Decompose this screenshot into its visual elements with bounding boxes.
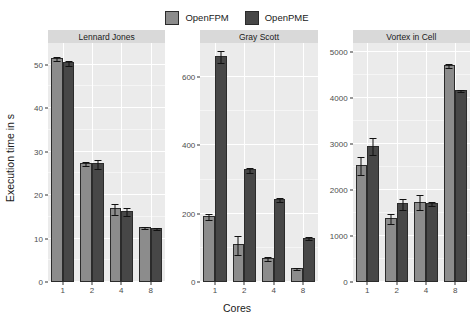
error-bar-cap-top [264, 257, 271, 258]
y-axis-2: 010002000300040005000 [323, 30, 353, 296]
bar-openpme [397, 203, 409, 282]
y-tick-label: 2000 [330, 186, 348, 195]
bar-group [353, 43, 382, 282]
error-bar-cap-bottom [153, 230, 160, 231]
bar-group [77, 43, 106, 282]
bar-group [259, 43, 288, 282]
error-bar-cap-bottom [235, 255, 242, 256]
bar-group [200, 43, 229, 282]
bar-openpme [121, 211, 133, 282]
error-bar-cap-top [458, 90, 465, 91]
y-axis-1: 0200400600 [170, 30, 200, 296]
panel-col-1: Gray Scott1248 [200, 30, 317, 296]
bar-openfpm [139, 227, 151, 282]
bar-openpme [244, 169, 256, 282]
error-bar-cap-bottom [53, 61, 60, 62]
x-tick-mark [396, 282, 397, 285]
error-bar-cap-bottom [94, 169, 101, 170]
bar-layer-1 [200, 43, 317, 282]
error-bar-cap-top [112, 204, 119, 205]
error-bar-cap-top [235, 236, 242, 237]
error-bar-cap-bottom [387, 224, 394, 225]
x-tick-mark [244, 282, 245, 285]
error-bar-cap-top [370, 138, 377, 139]
error-bar-cap-bottom [112, 215, 119, 216]
error-bar [97, 160, 98, 169]
error-bar-cap-top [65, 61, 72, 62]
x-tick-label: 4 [271, 286, 275, 295]
error-bar-cap-bottom [417, 210, 424, 211]
x-tick-mark [302, 282, 303, 285]
y-tick-label: 0 [343, 278, 347, 287]
error-bar-cap-bottom [458, 92, 465, 93]
error-bar [373, 138, 374, 154]
error-bar-cap-bottom [264, 261, 271, 262]
x-tick-label: 4 [119, 286, 123, 295]
error-bar-cap-bottom [428, 206, 435, 207]
error-bar-cap-top [417, 195, 424, 196]
error-bar-cap-top [294, 268, 301, 269]
error-bar-cap-top [276, 198, 283, 199]
facet-strip-label-2: Vortex in Cell [353, 30, 470, 43]
legend-entry-openpme: OpenPME [245, 11, 309, 25]
chart-container: OpenFPM OpenPME Execution time in s 0102… [0, 0, 474, 316]
y-tick-label: 10 [34, 234, 43, 243]
bar-openpme [367, 146, 379, 283]
bar-openfpm [203, 216, 215, 282]
y-tick-label: 1000 [330, 232, 348, 241]
error-bar [220, 51, 221, 63]
y-tick-label: 20 [34, 191, 43, 200]
error-bar-cap-bottom [141, 229, 148, 230]
panel-col-0: Lennard Jones1248 [48, 30, 165, 296]
x-tick-label: 8 [453, 286, 457, 295]
facet-row: 01020304050Lennard Jones12480200400600Gr… [18, 30, 470, 296]
bar-group [288, 43, 317, 282]
facet-1: 0200400600Gray Scott1248 [170, 30, 317, 296]
facet-strip-label-0: Lennard Jones [48, 30, 165, 43]
error-bar-cap-bottom [305, 240, 312, 241]
x-tick-label: 8 [148, 286, 152, 295]
error-bar-cap-top [387, 214, 394, 215]
bar-openfpm [51, 58, 63, 282]
bar-group [48, 43, 77, 282]
error-bar-cap-top [217, 51, 224, 52]
error-bar [115, 204, 116, 215]
y-tick-label: 400 [182, 141, 195, 150]
plot-panel-0 [48, 43, 165, 282]
facet-0: 01020304050Lennard Jones1248 [18, 30, 165, 296]
y-tick-label: 30 [34, 147, 43, 156]
y-tick-label: 50 [34, 60, 43, 69]
y-tick-label: 4000 [330, 94, 348, 103]
y-tick-label: 5000 [330, 48, 348, 57]
legend-swatch-openpme [245, 11, 259, 25]
error-bar-cap-bottom [399, 210, 406, 211]
x-tick-label: 8 [301, 286, 305, 295]
bar-openfpm [385, 218, 397, 282]
x-tick-label: 4 [424, 286, 428, 295]
bar-group [441, 43, 470, 282]
y-tick-label: 600 [182, 73, 195, 82]
x-axis-0: 1248 [48, 282, 165, 296]
error-bar-cap-top [446, 64, 453, 65]
bar-openfpm [356, 165, 368, 282]
x-axis-2: 1248 [353, 282, 470, 296]
error-bar-cap-bottom [276, 202, 283, 203]
error-bar-cap-bottom [358, 175, 365, 176]
x-tick-mark [91, 282, 92, 285]
bar-openfpm [80, 163, 92, 282]
y-tick-label: 3000 [330, 140, 348, 149]
error-bar [238, 236, 239, 255]
error-bar-cap-bottom [370, 155, 377, 156]
bar-openpme [426, 203, 438, 282]
y-axis-title-text: Execution time in s [4, 114, 16, 202]
legend-label-openfpm: OpenFPM [185, 13, 228, 23]
error-bar-cap-top [206, 214, 213, 215]
error-bar-cap-bottom [247, 173, 254, 174]
x-tick-label: 1 [60, 286, 64, 295]
panel-col-2: Vortex in Cell1248 [353, 30, 470, 296]
bar-group [411, 43, 440, 282]
error-bar-cap-top [247, 168, 254, 169]
error-bar-cap-top [305, 237, 312, 238]
x-tick-label: 2 [394, 286, 398, 295]
legend-entry-openfpm: OpenFPM [165, 11, 228, 25]
